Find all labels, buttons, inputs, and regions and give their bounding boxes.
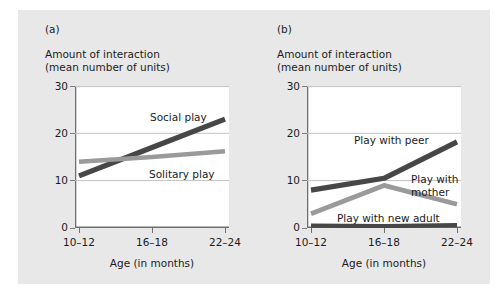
panel-b-ytick-10: 10 xyxy=(274,174,300,186)
panel-a-series-solitary-play xyxy=(79,151,225,161)
panel-b-label-play-with-new-adult: Play with new adult xyxy=(337,212,440,225)
chart-panel-a: (a) Amount of interaction (mean number o… xyxy=(18,10,254,284)
panel-a-ytick-30: 30 xyxy=(42,80,68,92)
panel-b-xtick-mark-1 xyxy=(311,228,312,233)
panel-b-xtick-10-12: 10–12 xyxy=(285,236,337,248)
panel-b-ytick-20: 20 xyxy=(274,127,300,139)
panel-a-plot-area xyxy=(75,86,229,228)
panel-b-series-play-with-new-adult xyxy=(311,225,457,226)
panel-b-label-play-with-mother: Play with mother xyxy=(411,173,459,198)
panel-b-ytick-30: 30 xyxy=(274,80,300,92)
panel-b-label-play-with-peer: Play with peer xyxy=(354,134,429,147)
panel-a-xtick-mark-1 xyxy=(79,228,80,233)
panel-b-ytick-0: 0 xyxy=(274,221,300,233)
panel-a-label-solitary-play: Solitary play xyxy=(149,168,215,181)
panel-a-ytick-mark-0 xyxy=(70,228,75,229)
panel-b-ytick-mark-0 xyxy=(302,228,307,229)
panel-a-ytick-20: 20 xyxy=(42,127,68,139)
panel-a-xtick-10-12: 10–12 xyxy=(53,236,105,248)
panel-b-xtick-mark-3 xyxy=(457,228,458,233)
panel-a-xtick-mark-3 xyxy=(225,228,226,233)
panel-b-xtick-mark-2 xyxy=(384,228,385,233)
panel-a-xtick-22-24: 22–24 xyxy=(199,236,251,248)
panel-a-x-axis-label: Age (in months) xyxy=(75,257,229,269)
panel-a-xtick-16-18: 16–18 xyxy=(126,236,178,248)
panel-b-xtick-22-24: 22–24 xyxy=(431,236,483,248)
panel-a-tag: (a) xyxy=(45,23,60,35)
panel-a-ytick-0: 0 xyxy=(42,221,68,233)
panel-b-y-axis-title: Amount of interaction (mean number of un… xyxy=(277,48,402,74)
panel-a-xtick-mark-2 xyxy=(152,228,153,233)
figure-panel: (a) Amount of interaction (mean number o… xyxy=(18,10,490,284)
panel-a-y-axis-title: Amount of interaction (mean number of un… xyxy=(45,48,170,74)
panel-b-plot-area xyxy=(307,86,461,228)
panel-a-ytick-10: 10 xyxy=(42,174,68,186)
panel-b-xtick-16-18: 16–18 xyxy=(358,236,410,248)
panel-b-x-axis-label: Age (in months) xyxy=(307,257,461,269)
panel-a-label-social-play: Social play xyxy=(150,111,207,124)
panel-b-tag: (b) xyxy=(277,23,292,35)
chart-panel-b: (b) Amount of interaction (mean number o… xyxy=(250,10,486,284)
